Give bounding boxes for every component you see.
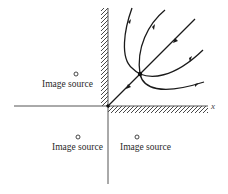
- image-source-lower-left: Image source: [52, 135, 103, 152]
- source-in-corner-flow-diagram: x Image source Image source Image source: [0, 0, 228, 194]
- source-point: [138, 72, 142, 76]
- image-source-label: Image source: [120, 142, 171, 152]
- image-source-upper-left: Image source: [42, 72, 93, 89]
- arrow-icon: [195, 83, 199, 87]
- image-source-lower-right: Image source: [120, 135, 171, 152]
- wall-vertical: [101, 8, 108, 106]
- wall-horizontal: [108, 106, 208, 113]
- streamline-upper-1: [124, 8, 140, 74]
- image-source-label: Image source: [52, 142, 103, 152]
- image-source-label: Image source: [42, 79, 93, 89]
- arrow-icons: [126, 19, 199, 89]
- x-axis-label: x: [210, 101, 215, 111]
- arrow-icon: [152, 24, 155, 30]
- streamlines: [108, 8, 204, 106]
- diagonal-streamline: [108, 19, 195, 106]
- streamline-lower-1: [140, 50, 203, 76]
- origin-corner: [106, 104, 109, 107]
- streamline-upper-2: [139, 10, 204, 89]
